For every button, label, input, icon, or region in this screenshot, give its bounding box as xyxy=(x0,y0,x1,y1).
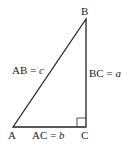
right-triangle-diagram: B A C AB = c BC = a AC = b xyxy=(0,0,134,150)
vertex-label-b: B xyxy=(81,5,88,17)
side-ac-name: AC xyxy=(32,129,47,141)
side-bc-name: BC xyxy=(89,67,104,79)
right-angle-marker xyxy=(77,118,86,127)
side-ac-var: b xyxy=(59,129,65,141)
vertex-label-c: C xyxy=(81,129,88,141)
side-label-ab: AB = c xyxy=(12,64,44,76)
side-label-bc: BC = a xyxy=(89,67,121,79)
side-ab-var: c xyxy=(39,64,44,76)
side-label-ac: AC = b xyxy=(32,129,65,141)
vertex-label-a: A xyxy=(8,129,16,141)
side-ab-eq: = xyxy=(30,64,36,76)
side-ac-eq: = xyxy=(50,129,56,141)
side-bc-eq: = xyxy=(106,67,112,79)
side-ab-name: AB xyxy=(12,64,27,76)
side-bc-var: a xyxy=(115,67,121,79)
